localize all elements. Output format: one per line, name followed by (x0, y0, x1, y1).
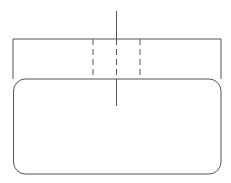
inner-rounded-rect (14, 79, 222, 174)
diagram-canvas (0, 0, 231, 183)
